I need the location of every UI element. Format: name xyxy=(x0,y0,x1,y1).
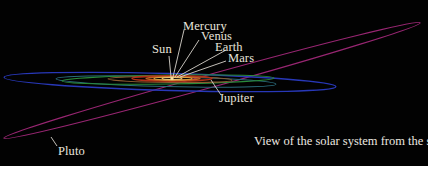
solar-system-side-view-diagram: Sun Mercury Venus Earth Mars Jupiter Plu… xyxy=(0,0,428,166)
mars-label: Mars xyxy=(228,52,254,65)
pluto-leader-line xyxy=(51,137,57,146)
jupiter-label: Jupiter xyxy=(219,92,254,105)
figure-caption: View of the solar system from the side xyxy=(254,135,428,148)
pluto-label: Pluto xyxy=(58,145,85,158)
leader-lines xyxy=(51,30,226,146)
sun-marker xyxy=(170,77,173,80)
mercury-leader-line xyxy=(173,30,184,77)
neptune-orbit xyxy=(4,69,336,95)
sun-label: Sun xyxy=(152,43,172,56)
